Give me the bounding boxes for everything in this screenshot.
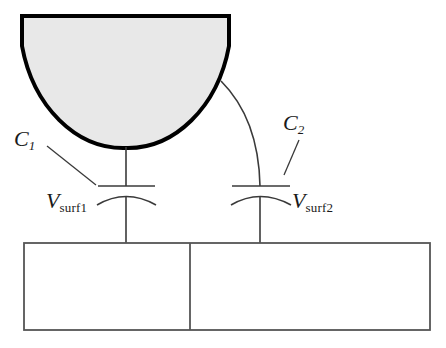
figure-canvas: C1 C2 Vsurf1 Vsurf2	[0, 0, 446, 348]
leader-line-c1	[47, 146, 96, 185]
label-vsurf2: Vsurf2	[292, 190, 333, 214]
label-c1: C1	[14, 128, 35, 152]
label-c2-symbol: C	[283, 110, 298, 135]
substrate	[24, 243, 430, 330]
label-vsurf1: Vsurf1	[46, 190, 87, 214]
probe-tip	[22, 16, 229, 148]
label-c1-symbol: C	[14, 126, 29, 151]
schematic-diagram	[0, 0, 446, 348]
capacitor-c2-bottom-plate	[231, 197, 291, 206]
label-c2: C2	[283, 112, 304, 136]
wire-tip-to-c2	[221, 81, 260, 186]
label-vsurf1-symbol: V	[46, 188, 59, 213]
label-vsurf2-symbol: V	[292, 188, 305, 213]
label-vsurf2-subscript: surf2	[305, 200, 333, 215]
label-vsurf1-subscript: surf1	[59, 200, 87, 215]
label-c2-subscript: 2	[298, 122, 305, 137]
label-c1-subscript: 1	[29, 138, 36, 153]
leader-line-c2	[284, 140, 299, 175]
